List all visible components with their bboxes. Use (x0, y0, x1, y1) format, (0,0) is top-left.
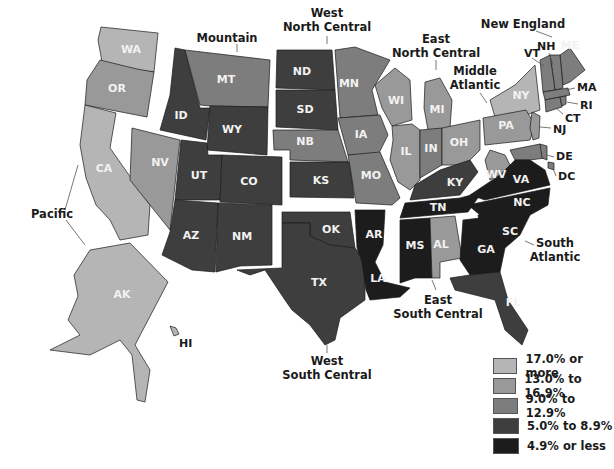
legend-swatch (493, 398, 518, 414)
state-label-mn: MN (339, 77, 359, 90)
state-label-tx: TX (311, 276, 328, 289)
legend-item: 4.9% or less (493, 436, 614, 456)
state-label-ga: GA (477, 243, 495, 256)
legend: 17.0% or more 13.0% to 16.9% 9.0% to 12.… (493, 356, 614, 456)
region-label-west-north-central-2: North Central (283, 20, 371, 34)
state-label-nd: ND (293, 65, 311, 78)
state-md[interactable] (510, 144, 545, 160)
state-label-az: AZ (183, 229, 200, 242)
region-label-new-england: New England (481, 17, 565, 31)
state-label-mt: MT (217, 73, 236, 86)
state-label-nm: NM (232, 230, 252, 243)
region-label-mountain: Mountain (196, 31, 257, 45)
state-label-fl: FL (506, 296, 521, 309)
state-label-co: CO (240, 175, 257, 188)
state-label-ks: KS (313, 174, 330, 187)
state-label-wv: WV (486, 168, 507, 181)
state-label-al: AL (433, 238, 449, 251)
state-label-nb: NB (296, 135, 314, 148)
state-label-ri: RI (580, 99, 593, 112)
region-label-west-north-central-1: West (311, 6, 344, 20)
state-label-ia: IA (355, 128, 368, 141)
state-label-ut: UT (191, 169, 208, 182)
state-label-id: ID (174, 109, 187, 122)
state-label-nh: NH (537, 40, 555, 53)
state-label-ca: CA (96, 162, 113, 175)
state-label-in: IN (424, 142, 437, 155)
state-label-ak: AK (113, 288, 131, 301)
state-label-wy: WY (222, 123, 243, 136)
region-label-west-south-central-2: South Central (282, 368, 371, 382)
state-ak[interactable] (50, 243, 168, 402)
state-label-ct: CT (565, 112, 581, 125)
state-label-wi: WI (388, 94, 404, 107)
state-label-mi: MI (429, 103, 444, 116)
state-label-nc: NC (513, 196, 530, 209)
state-label-la: LA (370, 272, 386, 285)
legend-swatch (493, 418, 519, 434)
legend-swatch (493, 438, 519, 454)
state-label-hi: HI (179, 337, 192, 350)
state-label-oh: OH (450, 136, 469, 149)
legend-item: 9.0% to 12.9% (493, 396, 614, 416)
state-label-sd: SD (296, 103, 313, 116)
region-label-pacific: Pacific (31, 207, 73, 221)
region-label-east-south-central-2: South Central (393, 307, 482, 321)
region-label-south-atlantic-1: South (536, 236, 574, 250)
state-label-tn: TN (430, 201, 447, 214)
state-label-il: IL (400, 145, 411, 158)
state-hi[interactable] (170, 326, 179, 336)
state-label-de: DE (556, 150, 573, 163)
state-label-me: ME (561, 39, 579, 52)
state-ct[interactable] (545, 97, 562, 112)
state-label-mo: MO (361, 169, 381, 182)
state-label-nj: NJ (553, 123, 566, 136)
legend-label: 4.9% or less (527, 439, 606, 453)
region-label-west-south-central-1: West (311, 354, 344, 368)
region-label-east-north-central-1: East (422, 32, 450, 46)
state-label-dc: DC (558, 170, 575, 183)
legend-item: 5.0% to 8.9% (493, 416, 614, 436)
region-label-south-atlantic-2: Atlantic (530, 250, 581, 264)
state-label-wa: WA (121, 43, 142, 56)
state-label-nv: NV (151, 156, 169, 169)
state-label-sc: SC (502, 225, 518, 238)
state-label-pa: PA (498, 119, 514, 132)
region-label-east-south-central-1: East (424, 293, 452, 307)
state-label-or: OR (108, 82, 126, 95)
state-label-ok: OK (322, 223, 340, 236)
state-label-ma: MA (577, 81, 597, 94)
state-label-va: VA (513, 173, 530, 186)
region-label-east-north-central-2: North Central (392, 46, 480, 60)
region-label-middle-atlantic-1: Middle (453, 64, 497, 78)
state-label-ky: KY (447, 176, 465, 189)
legend-swatch (493, 378, 516, 394)
legend-swatch (493, 358, 517, 374)
legend-label: 5.0% to 8.9% (527, 419, 612, 433)
state-label-ms: MS (406, 239, 425, 252)
legend-label: 9.0% to 12.9% (526, 392, 614, 420)
state-me[interactable] (560, 48, 585, 85)
region-label-middle-atlantic-2: Atlantic (450, 78, 501, 92)
state-label-ar: AR (366, 228, 384, 241)
state-label-ny: NY (512, 89, 530, 102)
